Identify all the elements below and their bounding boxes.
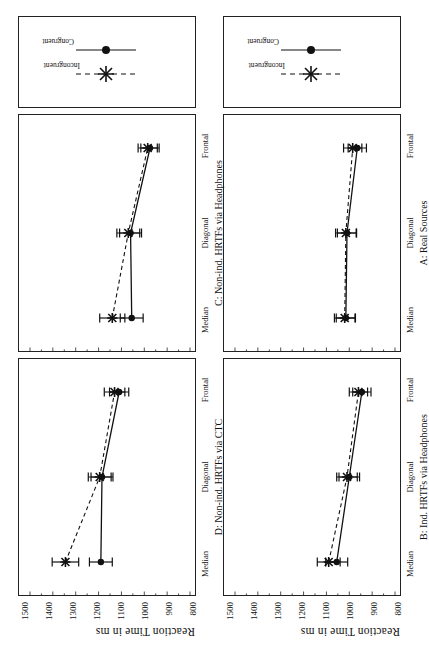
panel-a (223, 114, 401, 352)
y-tick-label: 1500 (20, 602, 30, 626)
x-cat-label: Median (200, 298, 210, 342)
y-tick-label: 800 (188, 602, 198, 626)
y-axis-title-bottom-row: Reaction Time in ms (301, 626, 400, 638)
y-tick-label: 800 (393, 602, 403, 626)
y-tick-label: 1400 (44, 602, 54, 626)
panel-title-b: B: Ind. HRTFs via Headphones (418, 397, 429, 557)
y-tick-label: 1200 (297, 602, 307, 626)
legend-label-congruent-top: Congruent (42, 37, 74, 46)
panel-b (223, 358, 401, 596)
y-tick-label: 1200 (92, 602, 102, 626)
y-tick-label: 1500 (225, 602, 235, 626)
x-cat-label: Diagonal (200, 455, 210, 499)
x-cat-label: Frontal (405, 124, 415, 168)
panel-a-plot (223, 114, 401, 352)
y-axis-title-top-row: Reaction Time in ms (96, 626, 195, 638)
panel-title-d: D: Non-ind. HRTFs via CTC (213, 397, 224, 557)
legend-label-incongruent-bottom: Incongruent (249, 61, 285, 70)
y-tick-label: 1100 (321, 602, 331, 626)
y-tick-label: 1100 (116, 602, 126, 626)
x-cat-label: Median (200, 542, 210, 586)
panel-d (18, 358, 196, 596)
panel-c-plot (18, 114, 196, 352)
y-tick-label: 1300 (273, 602, 283, 626)
legend-label-congruent-bottom: Congruent (247, 37, 279, 46)
x-cat-label: Frontal (200, 124, 210, 168)
panel-b-plot (223, 358, 401, 596)
x-cat-label: Median (405, 542, 415, 586)
panel-title-a: A: Real Sources (418, 153, 429, 313)
y-tick-label: 1400 (249, 602, 259, 626)
y-tick-label: 1300 (68, 602, 78, 626)
x-cat-label: Frontal (200, 368, 210, 412)
y-tick-label: 1000 (345, 602, 355, 626)
y-tick-label: 900 (369, 602, 379, 626)
x-cat-label: Diagonal (200, 211, 210, 255)
x-cat-label: Frontal (405, 368, 415, 412)
y-tick-label: 900 (164, 602, 174, 626)
x-cat-label: Median (405, 298, 415, 342)
panel-d-plot (18, 358, 196, 596)
panel-c (18, 114, 196, 352)
x-cat-label: Diagonal (405, 211, 415, 255)
panel-title-c: C: Non-ind. HRTFs via Headphones (213, 153, 224, 313)
legend-label-incongruent-top: Incongruent (44, 61, 80, 70)
x-cat-label: Diagonal (405, 455, 415, 499)
y-tick-label: 1000 (140, 602, 150, 626)
